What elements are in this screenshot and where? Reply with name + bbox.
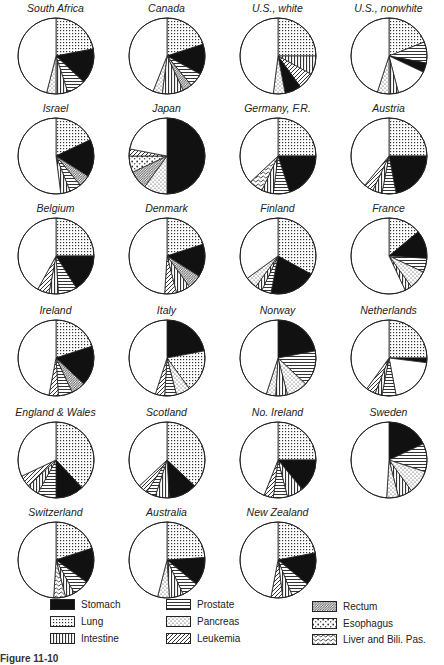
- pie-segment-stomach: [167, 118, 205, 194]
- legend-swatch-icon: [50, 633, 75, 644]
- pie-chart: [348, 215, 430, 297]
- pie-chart: [15, 519, 97, 601]
- pie-norway: Norway: [222, 303, 333, 399]
- pie-title: Finland: [222, 201, 333, 215]
- pie-title: Switzerland: [0, 505, 111, 519]
- legend-swatch-icon: [312, 601, 337, 612]
- legend-label: Liver and Bili. Pas.: [343, 634, 426, 645]
- legend-swatch-icon: [50, 616, 75, 627]
- pie-chart: [15, 115, 97, 197]
- legend-item-pancreas: Pancreas: [166, 613, 239, 629]
- pie-title: Netherlands: [333, 303, 444, 317]
- pie-segment-lung: [278, 118, 316, 156]
- legend-label: Rectum: [343, 601, 377, 612]
- pie-chart: [15, 215, 97, 297]
- pie-new-zealand: New Zealand: [222, 505, 333, 601]
- pie-title: France: [333, 201, 444, 215]
- pie-chart: [15, 317, 97, 399]
- pie-title: South Africa: [0, 1, 111, 15]
- pie-segment-other: [240, 522, 278, 597]
- legend-item-esophagus: Esophagus: [312, 615, 393, 631]
- legend-label: Lung: [81, 616, 103, 627]
- pie-france: France: [333, 201, 444, 297]
- pie-title: U.S., nonwhite: [333, 1, 444, 15]
- pie-finland: Finland: [222, 201, 333, 297]
- pie-chart: [237, 317, 319, 399]
- pie-title: Austria: [333, 101, 444, 115]
- legend-swatch-icon: [50, 599, 75, 610]
- pie-segment-lung: [167, 522, 205, 560]
- legend-swatch-icon: [312, 618, 337, 629]
- pie-title: New Zealand: [222, 505, 333, 519]
- legend-label: Leukemia: [197, 633, 240, 644]
- pie-segment-other: [350, 422, 388, 498]
- legend: StomachLungIntestineProstatePancreasLeuk…: [0, 596, 444, 665]
- legend-swatch-icon: [312, 634, 337, 645]
- pie-title: Germany, F.R.: [222, 101, 333, 115]
- pie-segment-other: [129, 118, 166, 156]
- pie-scotland: Scotland: [111, 405, 222, 501]
- pie-chart: [126, 419, 208, 501]
- pie-segment-lung: [278, 18, 316, 56]
- legend-item-prostate: Prostate: [166, 596, 234, 612]
- figure-caption: Figure 11-10: [0, 653, 58, 664]
- pie-segment-other: [18, 118, 61, 194]
- pie-title: U.S., white: [222, 1, 333, 15]
- legend-item-stomach: Stomach: [50, 596, 120, 612]
- pie-sweden: Sweden: [333, 405, 444, 501]
- pie-chart: [237, 15, 319, 97]
- pie-chart: [15, 15, 97, 97]
- pie-segment-lung: [56, 218, 94, 256]
- pie-u-s-white: U.S., white: [222, 1, 333, 97]
- pie-chart: [126, 15, 208, 97]
- pie-netherlands: Netherlands: [333, 303, 444, 399]
- pie-segment-other: [18, 320, 56, 395]
- pie-chart: [348, 15, 430, 97]
- pie-title: Ireland: [0, 303, 111, 317]
- legend-label: Prostate: [197, 599, 234, 610]
- legend-item-leukemia: Leukemia: [166, 630, 240, 646]
- pie-denmark: Denmark: [111, 201, 222, 297]
- pie-no-ireland: No. Ireland: [222, 405, 333, 501]
- pie-title: Australia: [111, 505, 222, 519]
- pie-chart: [126, 519, 208, 601]
- pie-italy: Italy: [111, 303, 222, 399]
- pie-chart: [126, 317, 208, 399]
- pie-segment-other: [17, 522, 55, 598]
- pie-japan: Japan: [111, 101, 222, 197]
- legend-label: Stomach: [81, 599, 120, 610]
- pie-austria: Austria: [333, 101, 444, 197]
- pie-title: Japan: [111, 101, 222, 115]
- pie-title: Scotland: [111, 405, 222, 419]
- pie-chart: [348, 419, 430, 501]
- pie-switzerland: Switzerland: [0, 505, 111, 601]
- pie-canada: Canada: [111, 1, 222, 97]
- pie-chart: [126, 215, 208, 297]
- pie-chart: [15, 419, 97, 501]
- pie-title: Norway: [222, 303, 333, 317]
- pie-chart: [126, 115, 208, 197]
- legend-swatch-icon: [166, 616, 191, 627]
- pie-chart: [237, 519, 319, 601]
- pie-title: Denmark: [111, 201, 222, 215]
- legend-label: Esophagus: [343, 618, 393, 629]
- legend-label: Intestine: [81, 633, 119, 644]
- legend-swatch-icon: [166, 599, 191, 610]
- pie-segment-other: [239, 18, 277, 94]
- pie-chart: [348, 317, 430, 399]
- pie-title: No. Ireland: [222, 405, 333, 419]
- pie-australia: Australia: [111, 505, 222, 601]
- legend-item-lung: Lung: [50, 613, 103, 629]
- pie-title: Sweden: [333, 405, 444, 419]
- pie-germany-f-r-: Germany, F.R.: [222, 101, 333, 197]
- pie-u-s-nonwhite: U.S., nonwhite: [333, 1, 444, 97]
- pie-south-africa: South Africa: [0, 1, 111, 97]
- pie-israel: Israel: [0, 101, 111, 197]
- pie-segment-other: [128, 218, 166, 294]
- pie-chart: [237, 215, 319, 297]
- pie-title: Belgium: [0, 201, 111, 215]
- pie-title: Canada: [111, 1, 222, 15]
- legend-item-liver: Liver and Bili. Pas.: [312, 631, 426, 647]
- pie-segment-lung: [389, 320, 427, 358]
- pie-england-wales: England & Wales: [0, 405, 111, 501]
